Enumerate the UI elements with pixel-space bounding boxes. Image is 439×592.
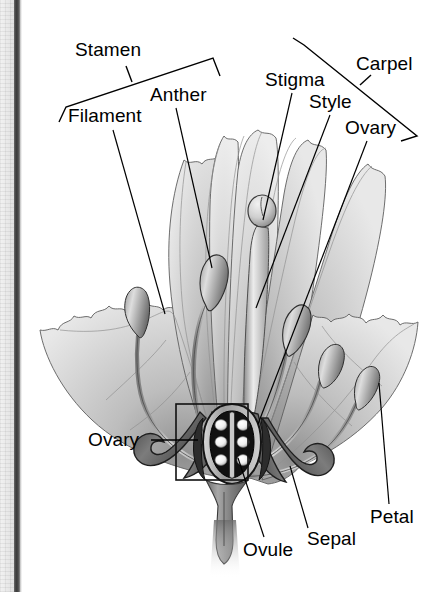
figure-page: Stamen Filament Anther Stigma Style Carp… (0, 0, 439, 592)
label-carpel: Carpel (356, 54, 413, 73)
label-style: Style (309, 92, 352, 111)
label-stigma: Stigma (265, 70, 325, 89)
label-filament: Filament (68, 106, 142, 125)
label-ovule: Ovule (243, 540, 293, 559)
label-petal: Petal (370, 507, 414, 526)
label-anther: Anther (150, 85, 207, 104)
label-ovary-top: Ovary (345, 118, 396, 137)
label-sepal: Sepal (307, 529, 356, 548)
label-overlay: Stamen Filament Anther Stigma Style Carp… (0, 0, 439, 592)
label-ovary-box: Ovary (88, 430, 139, 449)
label-stamen: Stamen (75, 40, 141, 59)
